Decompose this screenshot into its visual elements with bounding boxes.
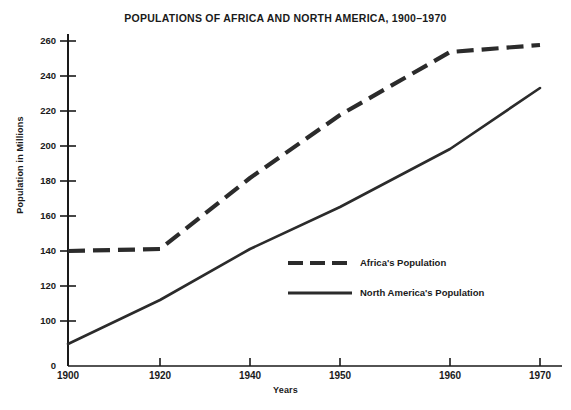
- legend-label-africa: Africa's Population: [360, 257, 446, 268]
- series-line-africa: [68, 45, 540, 251]
- legend-label-north-america: North America's Population: [360, 287, 484, 298]
- chart-container: POPULATIONS OF AFRICA AND NORTH AMERICA,…: [0, 0, 571, 410]
- series-line-north-america: [68, 88, 540, 344]
- plot-area: [0, 0, 571, 410]
